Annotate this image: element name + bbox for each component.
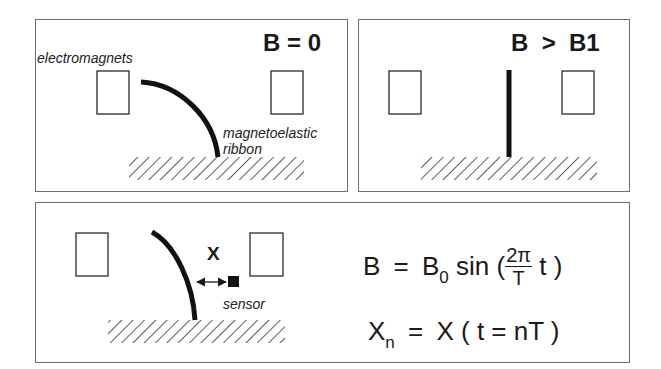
eq1-sin: sin ( bbox=[456, 251, 505, 281]
label-sensor: sensor bbox=[223, 297, 265, 311]
sensor-icon bbox=[228, 276, 239, 287]
electromagnet-right bbox=[250, 233, 283, 276]
label-displacement-x: X bbox=[207, 244, 220, 263]
electromagnet-right bbox=[271, 71, 303, 114]
eq1-frac-denominator: T bbox=[505, 267, 532, 288]
eq1-tail: t ) bbox=[539, 251, 562, 281]
hatched-base bbox=[129, 157, 304, 180]
eq1-frac-numerator: 2π bbox=[505, 245, 532, 267]
magnetoelastic-ribbon-bent bbox=[141, 82, 218, 157]
eq2-equals: = bbox=[408, 316, 423, 346]
eq1-b-subscript: 0 bbox=[439, 268, 448, 287]
panel-b-greater-b1-drawing bbox=[389, 70, 597, 180]
eq1-fraction: 2πT bbox=[505, 245, 532, 288]
panel-measurement-drawing bbox=[76, 232, 285, 343]
title-b-zero: B = 0 bbox=[263, 31, 321, 55]
equation-field: B = B0 sin (2πT t ) bbox=[363, 247, 562, 290]
hatched-base bbox=[108, 320, 285, 343]
hatched-base bbox=[421, 157, 597, 180]
eq2-rhs: X ( t = nT ) bbox=[436, 316, 559, 346]
electromagnet-right bbox=[562, 71, 594, 114]
label-electromagnets: electromagnets bbox=[37, 51, 133, 65]
eq2-lhs: X bbox=[368, 316, 385, 346]
electromagnet-left bbox=[97, 71, 129, 114]
magnetoelastic-ribbon-deflected bbox=[152, 232, 195, 320]
eq1-lhs: B bbox=[363, 251, 380, 281]
label-magnetoelastic: magnetoelastic bbox=[223, 126, 317, 140]
eq1-b: B bbox=[422, 251, 439, 281]
label-ribbon: ribbon bbox=[223, 142, 262, 156]
electromagnet-left bbox=[76, 233, 108, 276]
title-b-greater-b1: B > B1 bbox=[511, 31, 600, 55]
electromagnet-left bbox=[389, 71, 421, 114]
equation-sampling: Xn = X ( t = nT ) bbox=[368, 318, 560, 344]
eq2-lhs-subscript: n bbox=[385, 333, 394, 352]
eq1-equals: = bbox=[394, 251, 409, 281]
